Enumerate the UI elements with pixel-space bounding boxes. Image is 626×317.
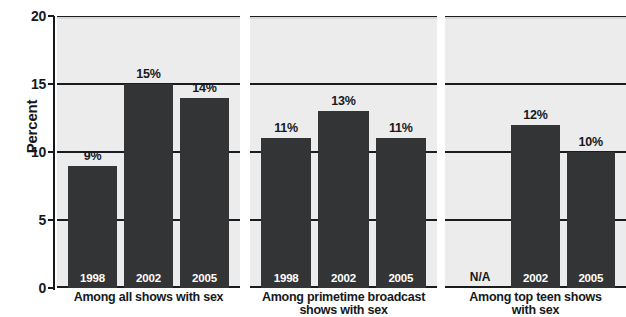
bar-slot: 12%2002 <box>511 16 559 288</box>
bar-category-label: 2002 <box>331 272 356 284</box>
caption-line: with sex <box>445 304 626 317</box>
bar-value-label: 15% <box>136 67 160 81</box>
bar-value-label: 14% <box>192 81 216 95</box>
panel-caption-primetime-broadcast-shows: Among primetime broadcastshows with sex <box>250 291 437 317</box>
bar[interactable]: 15%2002 <box>124 84 173 288</box>
bar-group: 9%199815%200214%2005 <box>57 16 240 288</box>
bar-category-label: 1998 <box>274 272 299 284</box>
bar-category-label: 2005 <box>578 272 603 284</box>
bar-value-label: 13% <box>331 94 355 108</box>
bar-slot: 13%2002 <box>318 16 368 288</box>
bar[interactable]: 11%1998 <box>261 138 311 288</box>
bar-slot: 11%1998 <box>261 16 311 288</box>
bar-not-available-label: N/A <box>470 270 491 284</box>
caption-line: shows with sex <box>250 304 437 317</box>
caption-line: Among all shows with sex <box>57 291 240 304</box>
y-axis-line <box>53 16 55 290</box>
y-axis-tick-labels: 05101520 <box>16 0 46 310</box>
y-axis-tick-label: 20 <box>20 8 46 24</box>
bar-value-label: 12% <box>523 108 547 122</box>
panel-caption-all-shows: Among all shows with sex <box>57 291 240 304</box>
bar-slot: 11%2005 <box>376 16 426 288</box>
y-axis-tick-label: 15 <box>20 76 46 92</box>
bar-slot: 14%2005 <box>180 16 229 288</box>
bar-category-label: 2005 <box>388 272 413 284</box>
bar-slot: 15%2002 <box>124 16 173 288</box>
bar-value-label: 11% <box>389 121 413 135</box>
bar[interactable]: 9%1998 <box>68 166 117 288</box>
bar-group: 11%199813%200211%2005 <box>250 16 437 288</box>
bar-slot: N/A <box>456 16 504 288</box>
bar[interactable]: 10%2005 <box>567 152 615 288</box>
bar-category-label: 2002 <box>523 272 548 284</box>
bar-value-label: 10% <box>579 135 603 149</box>
panel-primetime-broadcast-shows: 11%199813%200211%2005 <box>250 16 437 288</box>
bar[interactable]: 12%2002 <box>511 125 559 288</box>
bar-slot: 9%1998 <box>68 16 117 288</box>
panel-caption-top-teen-shows: Among top teen showswith sex <box>445 291 626 317</box>
panel-all-shows: 9%199815%200214%2005 <box>57 16 240 288</box>
y-axis-tick-label: 5 <box>20 212 46 228</box>
bar-slot: 10%2005 <box>567 16 615 288</box>
bar[interactable]: 11%2005 <box>376 138 426 288</box>
bar-value-label: 9% <box>84 149 102 163</box>
bar[interactable]: 13%2002 <box>318 111 368 288</box>
panel-top-teen-shows: N/A12%200210%2005 <box>445 16 626 288</box>
bar-group: N/A12%200210%2005 <box>445 16 626 288</box>
bar-category-label: 1998 <box>80 272 105 284</box>
y-axis-tick-label: 10 <box>20 144 46 160</box>
bar-category-label: 2002 <box>136 272 161 284</box>
y-axis-tick-label: 0 <box>20 280 46 296</box>
bar[interactable]: 14%2005 <box>180 98 229 288</box>
bar-value-label: 11% <box>274 121 298 135</box>
bar-category-label: 2005 <box>192 272 217 284</box>
